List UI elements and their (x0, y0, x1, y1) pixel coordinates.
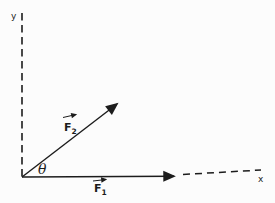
vector-f2-label: F2 (63, 115, 77, 137)
vector-diagram: y x θ F2 F1 (0, 0, 275, 203)
x-axis-dashed-line (183, 170, 261, 175)
vector-f1-label: F1 (93, 180, 107, 198)
figure-canvas: y x θ F2 F1 (0, 0, 275, 203)
vector-f2-arrow (22, 104, 117, 177)
vector-f1-label-arrow-icon (93, 180, 106, 182)
vector-f2-label-arrow-icon (63, 115, 76, 118)
y-axis-label: y (11, 11, 17, 21)
vector-f2-label-text: F2 (64, 121, 77, 136)
vector-f1-label-text: F1 (94, 182, 107, 197)
x-axis-label: x (258, 174, 264, 184)
angle-theta-label: θ (38, 161, 47, 177)
